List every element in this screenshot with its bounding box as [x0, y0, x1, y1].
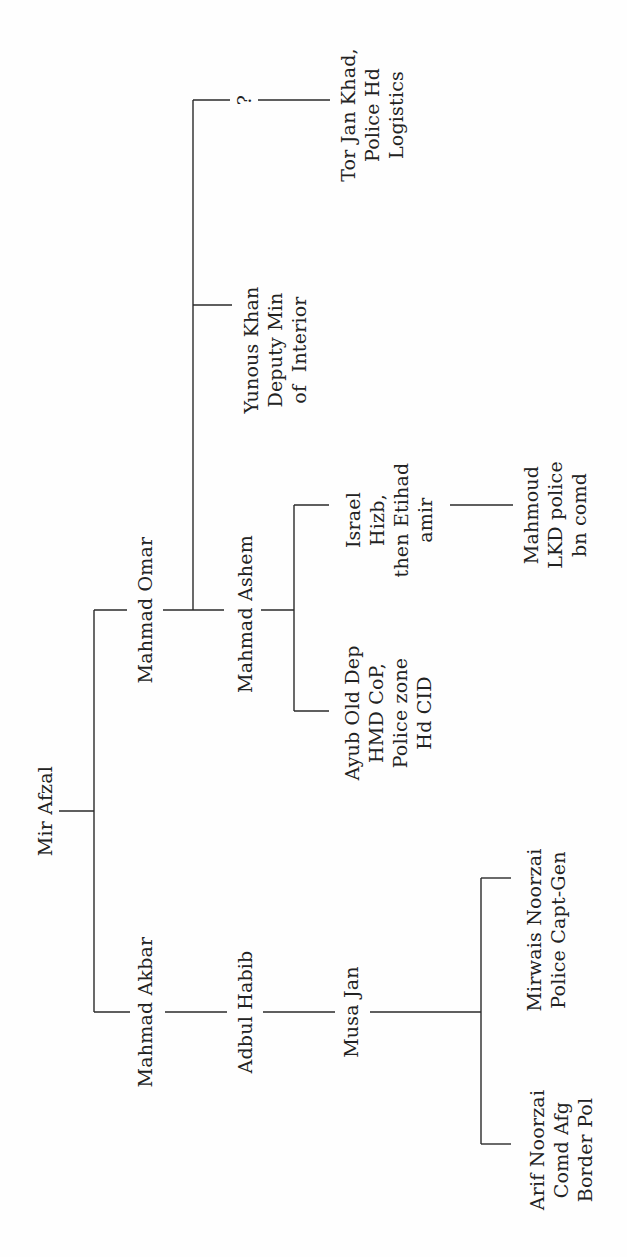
- node-label: Mahmad Omar: [133, 537, 157, 684]
- node-label: Adbul Habib: [233, 951, 257, 1074]
- node-label: ?: [232, 95, 256, 105]
- node-label: Arif Noorzai Comd Afg Border Pol: [525, 1090, 597, 1210]
- node-label: Mirwais Noorzai Police Capt-Gen: [522, 848, 570, 1011]
- node-label: Ayub Old Dep HMD CoP, Police zone Hd CID: [340, 645, 436, 780]
- node-label: Yunous Khan Deputy Min of Interior: [239, 286, 311, 413]
- node-label: Mahmoud LKD police bn comd: [519, 461, 591, 569]
- node-label: Musa Jan: [339, 966, 363, 1058]
- node-label: Tor Jan Khad, Police Hd Logistics: [336, 48, 408, 182]
- node-label: Mahmad Ashem: [233, 535, 257, 693]
- family-tree-diagram: Mir Afzal Mahmad Omar Mahmad Akbar Adbul…: [0, 0, 627, 1257]
- tree-connector-lines: [0, 0, 627, 1257]
- node-label: Mir Afzal: [33, 766, 57, 856]
- node-label: Mahmad Akbar: [133, 937, 157, 1088]
- node-label: Israel Hizb, then Etihad amir: [341, 463, 437, 578]
